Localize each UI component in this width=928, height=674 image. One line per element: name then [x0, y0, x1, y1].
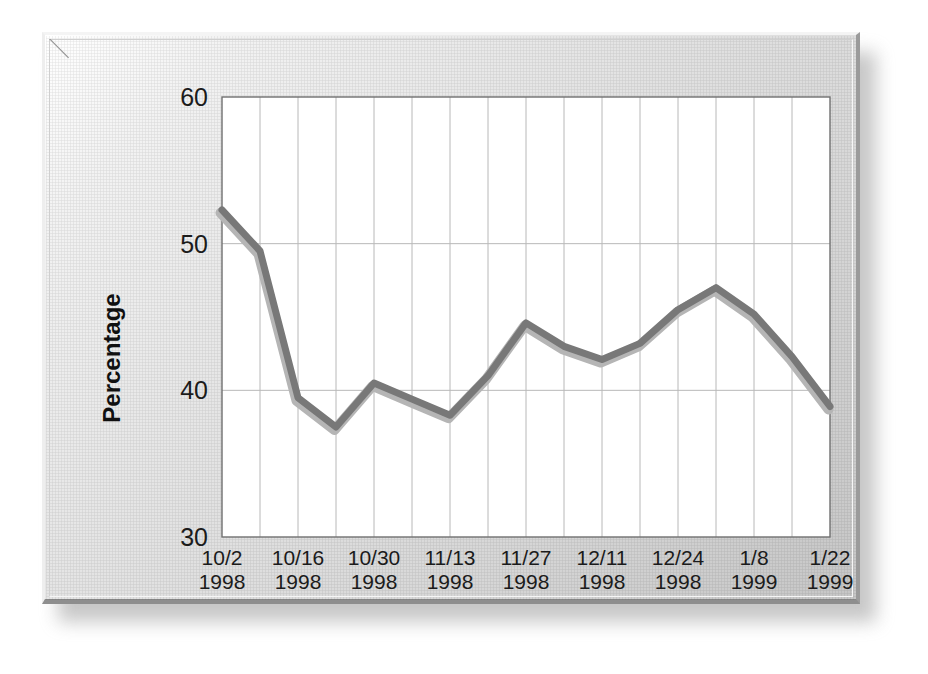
x-axis-tick-label: 1/81999: [731, 546, 778, 593]
x-axis-tick-label: 12/241998: [652, 546, 705, 593]
x-tick-year: 1999: [731, 570, 778, 593]
x-tick-date: 10/16: [272, 546, 325, 569]
x-tick-year: 1998: [655, 570, 702, 593]
x-tick-year: 1998: [351, 570, 398, 593]
x-tick-date: 10/30: [348, 546, 401, 569]
x-axis-tick-label: 10/21998: [199, 546, 246, 593]
x-axis-tick-label: 10/161998: [272, 546, 325, 593]
chart-canvas: 30405060 10/2199810/16199810/30199811/13…: [42, 32, 860, 604]
x-axis-tick-label: 1/221999: [807, 546, 854, 593]
x-axis-tick-label: 12/111998: [577, 546, 628, 593]
y-axis-title: Percentage: [98, 293, 125, 422]
x-tick-year: 1999: [807, 570, 854, 593]
x-axis-tick-label: 10/301998: [348, 546, 401, 593]
x-tick-date: 12/24: [652, 546, 705, 569]
x-axis-tick-label: 11/271998: [501, 546, 552, 593]
x-tick-date: 11/27: [501, 546, 552, 569]
y-axis-tick-label: 40: [180, 376, 208, 404]
x-tick-date: 1/22: [810, 546, 851, 569]
x-tick-date: 12/11: [577, 546, 628, 569]
x-tick-date: 10/2: [202, 546, 243, 569]
y-axis-tick-label: 50: [180, 230, 208, 258]
y-axis-tick-labels: 30405060: [180, 83, 208, 551]
y-axis-tick-label: 60: [180, 83, 208, 111]
x-tick-year: 1998: [275, 570, 322, 593]
x-axis-tick-label: 11/131998: [425, 546, 476, 593]
line-chart: 30405060 10/2199810/16199810/30199811/13…: [42, 32, 860, 604]
x-tick-year: 1998: [427, 570, 474, 593]
x-tick-date: 1/8: [739, 546, 768, 569]
x-axis-tick-labels: 10/2199810/16199810/30199811/13199811/27…: [199, 546, 854, 593]
x-tick-date: 11/13: [425, 546, 476, 569]
x-tick-year: 1998: [579, 570, 626, 593]
screenshot-root: 30405060 10/2199810/16199810/30199811/13…: [0, 0, 928, 674]
x-tick-year: 1998: [199, 570, 246, 593]
x-tick-year: 1998: [503, 570, 550, 593]
